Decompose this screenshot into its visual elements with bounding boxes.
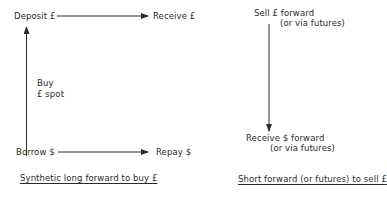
sell-futures-note: (or via futures) bbox=[280, 18, 345, 28]
borrow-label: Borrow $ bbox=[16, 147, 55, 157]
repay-label: Repay $ bbox=[156, 147, 191, 157]
left-caption: Synthetic long forward to buy £ bbox=[20, 173, 157, 183]
deposit-label: Deposit £ bbox=[14, 11, 56, 21]
buy-label: Buy bbox=[37, 78, 54, 88]
sell-forward-label: Sell £ forward bbox=[254, 8, 314, 18]
receive-forward-label: Receive $ forward bbox=[246, 133, 324, 143]
right-caption: Short forward (or futures) to sell £ bbox=[238, 174, 387, 184]
receive-futures-note: (or via futures) bbox=[270, 143, 335, 153]
receive-label: Receive £ bbox=[153, 11, 195, 21]
spot-label: £ spot bbox=[37, 89, 64, 99]
